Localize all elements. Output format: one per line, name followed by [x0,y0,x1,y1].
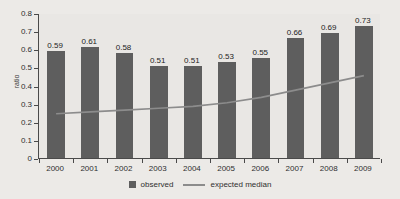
bar-data-label: 0.51 [178,56,206,65]
x-tick-label: 2005 [209,164,243,173]
bar-data-label: 0.53 [212,52,240,61]
x-tick-label: 2009 [346,164,380,173]
x-tick-mark [313,159,314,163]
legend-item-expected-median: expected median [183,180,271,189]
chart-container: ratio 0.80.70.60.50.40.30.20.10 0.590.61… [0,0,400,199]
line-swatch-icon [183,184,205,186]
square-swatch-icon [129,181,136,188]
x-tick-mark [381,159,382,163]
y-tick-label: 0.2 [4,119,32,127]
y-tick-label: 0.8 [4,10,32,18]
x-tick-label: 2007 [278,164,312,173]
y-tick-label: 0.5 [4,64,32,72]
legend-label-expected-median: expected median [210,180,271,189]
x-tick-label: 2001 [72,164,106,173]
x-tick-label: 2000 [38,164,72,173]
plot-area [38,14,380,159]
x-tick-label: 2003 [141,164,175,173]
y-tick-label: 0.4 [4,83,32,91]
x-tick-mark [244,159,245,163]
chart-legend: observed expected median [0,180,400,189]
x-tick-label: 2002 [107,164,141,173]
y-tick-label: 0.7 [4,28,32,36]
x-tick-label: 2004 [175,164,209,173]
x-tick-mark [142,159,143,163]
bar-data-label: 0.58 [110,43,138,52]
x-tick-mark [176,159,177,163]
bar-data-label: 0.66 [281,28,309,37]
bar-data-label: 0.73 [349,16,377,25]
bar-data-label: 0.55 [246,48,274,57]
y-tick-label: 0 [4,155,32,163]
y-tick-label: 0.1 [4,137,32,145]
x-tick-label: 2008 [312,164,346,173]
bar-data-label: 0.61 [75,37,103,46]
bar-data-label: 0.51 [144,56,172,65]
line-series-expected-median [39,14,381,159]
x-tick-label: 2006 [243,164,277,173]
x-tick-mark [39,159,40,163]
y-tick-label: 0.6 [4,46,32,54]
x-tick-mark [347,159,348,163]
y-tick-mark [34,159,38,160]
x-tick-mark [210,159,211,163]
bar-data-label: 0.59 [41,41,69,50]
legend-label-observed: observed [141,180,174,189]
x-tick-mark [107,159,108,163]
x-tick-mark [278,159,279,163]
y-tick-label: 0.3 [4,101,32,109]
legend-item-observed: observed [129,180,174,189]
x-tick-mark [73,159,74,163]
bar-data-label: 0.69 [315,23,343,32]
